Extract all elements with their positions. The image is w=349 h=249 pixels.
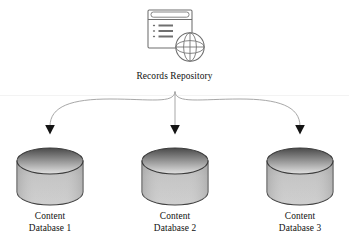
label-line-2: Database 2 — [115, 222, 235, 234]
cylinder-top — [142, 148, 208, 174]
records-repository-label: Records Repository — [0, 70, 349, 82]
browser-window-globe-icon — [148, 10, 204, 61]
arrowhead-right — [295, 125, 305, 135]
diagram-canvas: Records Repository Content Database 1 Co… — [0, 0, 349, 249]
arrowhead-left — [45, 125, 55, 135]
label-line-1: Content — [115, 210, 235, 222]
globe-icon — [176, 33, 204, 61]
label-line-2: Database 1 — [0, 222, 110, 234]
database-cylinder-2 — [267, 148, 333, 205]
arrowhead-group — [45, 125, 305, 135]
database-cylinder-1 — [142, 148, 208, 205]
connector-group — [50, 92, 300, 126]
arrowhead-center — [170, 125, 180, 135]
label-line-1: Content — [0, 210, 110, 222]
content-database-1-label: Content Database 1 — [0, 210, 110, 234]
connector-arrow-left — [50, 92, 175, 126]
content-database-3-label: Content Database 3 — [240, 210, 349, 234]
connector-arrow-right — [175, 92, 300, 126]
cylinder-top — [17, 148, 83, 174]
content-database-2-label: Content Database 2 — [115, 210, 235, 234]
database-cylinder-0 — [17, 148, 83, 205]
label-line-2: Database 3 — [240, 222, 349, 234]
cylinder-top — [267, 148, 333, 174]
label-line-1: Content — [240, 210, 349, 222]
